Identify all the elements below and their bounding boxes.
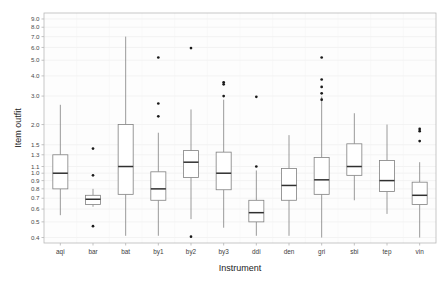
y-tick-label: 0.9 [31, 177, 40, 184]
y-tick-label: 0.7 [31, 194, 40, 201]
boxplot-svg: 9.08.07.06.05.04.03.02.01.51.31.11.00.90… [0, 0, 447, 281]
boxplot-chart: 9.08.07.06.05.04.03.02.01.51.31.11.00.90… [0, 0, 447, 281]
y-tick-label: 1.5 [31, 141, 40, 148]
x-tick-label-vin: vin [416, 248, 425, 255]
y-tick-label: 0.6 [31, 205, 40, 212]
x-tick-label-by2: by2 [186, 248, 197, 256]
y-tick-label: 0.5 [31, 218, 40, 225]
y-tick-label: 0.4 [31, 234, 40, 241]
y-tick-label: 4.0 [31, 72, 40, 79]
x-tick-label-by1: by1 [153, 248, 164, 256]
y-tick-label: 2.0 [31, 121, 40, 128]
y-axis-title: Item outfit [13, 108, 23, 148]
x-tick-label-sbi: sbi [350, 248, 358, 255]
y-tick-label: 3.0 [31, 92, 40, 99]
y-tick-label: 9.0 [31, 15, 40, 22]
x-tick-label-by3: by3 [219, 248, 230, 256]
y-tick-label: 6.0 [31, 44, 40, 51]
x-tick-label-ddi: ddi [252, 248, 261, 255]
x-tick-label-aqi: aqi [56, 248, 65, 256]
x-tick-label-bar: bar [88, 248, 98, 255]
x-tick-label-bat: bat [121, 248, 130, 255]
x-tick-label-gri: gri [318, 248, 325, 256]
y-tick-label: 0.8 [31, 185, 40, 192]
x-tick-label-tep: tep [383, 248, 392, 256]
x-tick-label-den: den [284, 248, 295, 255]
x-axis-title: Instrument [219, 263, 262, 273]
y-tick-label: 7.0 [31, 33, 40, 40]
y-tick-label: 1.0 [31, 169, 40, 176]
y-tick-label: 5.0 [31, 56, 40, 63]
y-tick-label: 8.0 [31, 23, 40, 30]
y-tick-label: 1.3 [31, 151, 40, 158]
